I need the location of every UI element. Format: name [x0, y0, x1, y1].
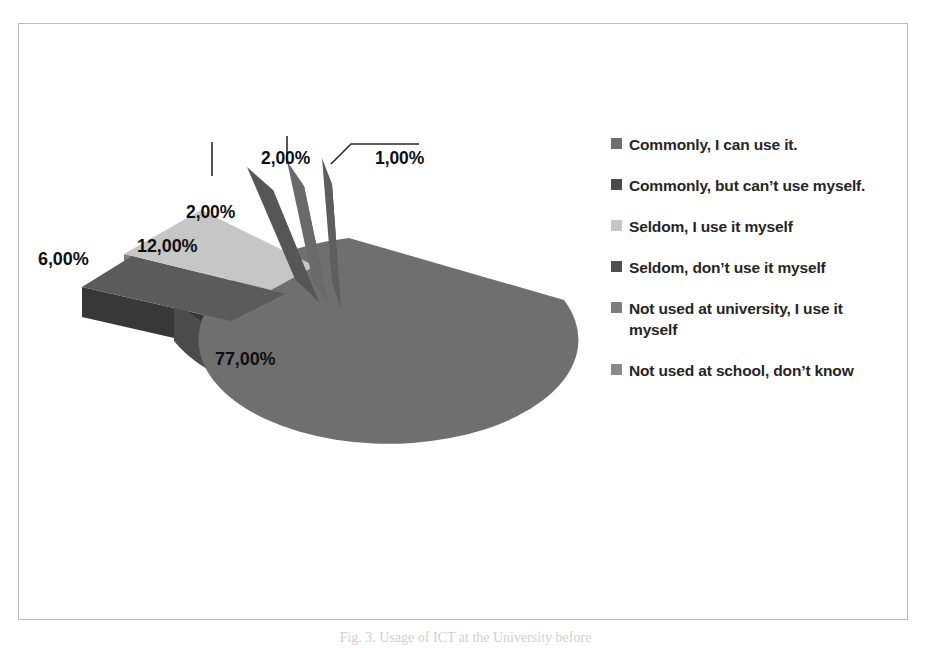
legend-label-5: Not used at school, don’t know	[629, 360, 854, 381]
legend-label-0: Commonly, I can use it.	[629, 134, 798, 155]
pie-plot-area: 77,00% 12,00% 6,00% 2,00% 2,00% 1,00%	[19, 24, 619, 621]
legend-swatch-icon-2	[611, 220, 622, 231]
pie-chart-3d	[19, 24, 619, 544]
chart-frame: 77,00% 12,00% 6,00% 2,00% 2,00% 1,00% Co…	[18, 23, 908, 620]
data-label-2a: 2,00%	[186, 202, 235, 223]
legend-item-3[interactable]: Seldom, don’t use it myself	[611, 257, 901, 278]
legend-swatch-icon-1	[611, 179, 622, 190]
legend-swatch-icon-5	[611, 364, 622, 375]
legend-item-4[interactable]: Not used at university, I use it myself	[611, 298, 901, 340]
legend-swatch-icon-0	[611, 138, 622, 149]
legend-item-0[interactable]: Commonly, I can use it.	[611, 134, 901, 155]
legend-item-1[interactable]: Commonly, but can’t use myself.	[611, 175, 901, 196]
chart-legend: Commonly, I can use it. Commonly, but ca…	[611, 134, 901, 401]
legend-swatch-icon-3	[611, 261, 622, 272]
legend-swatch-icon-4	[611, 302, 622, 313]
legend-label-3: Seldom, don’t use it myself	[629, 257, 826, 278]
data-label-77: 77,00%	[215, 349, 275, 370]
legend-label-1: Commonly, but can’t use myself.	[629, 175, 865, 196]
data-label-1: 1,00%	[375, 148, 424, 169]
legend-label-2: Seldom, I use it myself	[629, 216, 793, 237]
data-label-6: 6,00%	[38, 249, 89, 270]
figure-caption: Fig. 3. Usage of ICT at the University b…	[0, 630, 931, 646]
legend-item-5[interactable]: Not used at school, don’t know	[611, 360, 901, 381]
legend-item-2[interactable]: Seldom, I use it myself	[611, 216, 901, 237]
data-label-12: 12,00%	[137, 236, 197, 257]
data-label-2b: 2,00%	[261, 148, 310, 169]
legend-label-4: Not used at university, I use it myself	[629, 298, 884, 340]
